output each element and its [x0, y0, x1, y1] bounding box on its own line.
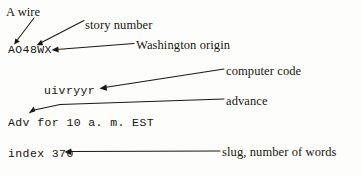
leader-computer-code — [100, 69, 225, 91]
label-a-wire: A wire — [6, 6, 40, 19]
figure-canvas: AO48WX uivryyr Adv for 10 a. m. EST inde… — [0, 0, 361, 176]
teletype-advance-line: Adv for 10 a. m. EST — [8, 117, 154, 129]
label-washington-origin: Washington origin — [136, 39, 230, 52]
leader-advance — [29, 99, 225, 114]
leader-story-number — [37, 21, 84, 46]
label-advance: advance — [226, 95, 268, 108]
leader-washington-origin — [52, 44, 135, 53]
leader-slug — [65, 149, 221, 156]
label-computer-code: computer code — [226, 65, 301, 78]
teletype-slug-line: index 370 — [8, 148, 74, 160]
teletype-computer-code: uivryyr — [44, 85, 95, 97]
label-slug-number-of-words: slug, number of words — [222, 146, 337, 159]
label-story-number: story number — [85, 19, 153, 32]
teletype-story-id: AO48WX — [8, 44, 52, 56]
leader-a-wire — [14, 18, 34, 45]
